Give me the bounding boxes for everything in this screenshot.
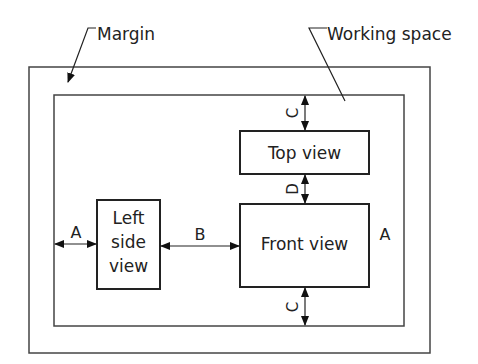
left-side-view-label-line1: Left: [113, 208, 145, 228]
front-view-label: Front view: [261, 234, 349, 254]
margin-label: Margin: [97, 24, 155, 44]
dimension-b-label: B: [195, 225, 206, 244]
top-view-label: Top view: [267, 143, 341, 163]
working-space-label: Working space: [327, 24, 452, 44]
dimension-a-left-label: A: [71, 223, 82, 242]
left-side-view-label-line3: view: [109, 256, 148, 276]
layout-diagram: Margin Working space Top view Front view…: [0, 0, 478, 364]
left-side-view-label-line2: side: [111, 232, 146, 252]
margin-leader: [68, 28, 96, 82]
dimension-a-right-label: A: [380, 225, 391, 244]
dimension-d-label: D: [284, 183, 302, 195]
dimension-c-bottom-label: C: [284, 302, 302, 312]
dimension-c-top-label: C: [284, 108, 302, 118]
